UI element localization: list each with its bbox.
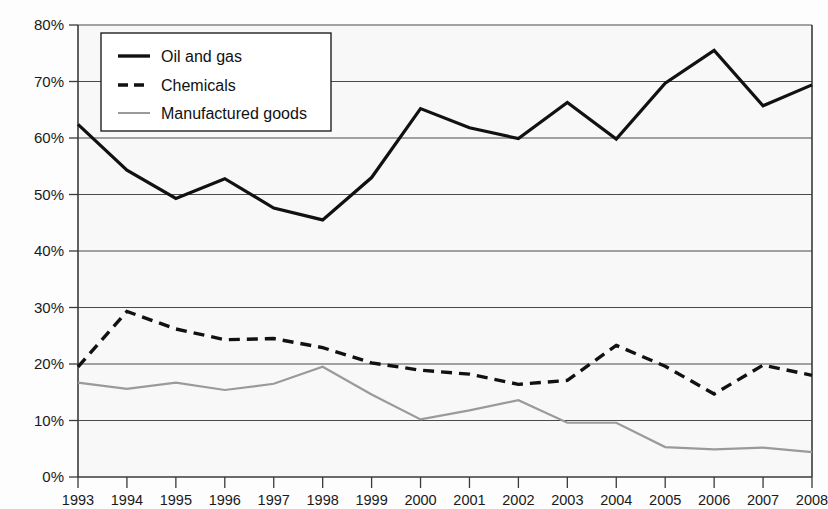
- x-tick-label: 1996: [209, 492, 241, 508]
- x-tick-label: 1998: [307, 492, 339, 508]
- x-tick-label: 2003: [551, 492, 583, 508]
- chart-legend: Oil and gas Chemicals Manufactured goods: [101, 33, 331, 131]
- x-tick-label: 1997: [258, 492, 290, 508]
- chart-container: 0%10%20%30%40%50%60%70%80% 1993199419951…: [0, 0, 828, 509]
- x-tick-label: 1994: [111, 492, 143, 508]
- legend-label-chemicals: Chemicals: [161, 77, 236, 94]
- x-tick-label: 2004: [600, 492, 632, 508]
- y-tick-label: 80%: [34, 16, 64, 33]
- x-tick-label: 2007: [747, 492, 779, 508]
- legend-label-oil-and-gas: Oil and gas: [161, 48, 242, 65]
- x-tick-label: 2002: [502, 492, 534, 508]
- y-tick-label: 10%: [34, 412, 64, 429]
- y-tick-label: 30%: [34, 299, 64, 316]
- x-tick-label: 2008: [796, 492, 828, 508]
- x-tick-label: 1995: [160, 492, 192, 508]
- x-tick-label: 2000: [404, 492, 436, 508]
- line-chart: 0%10%20%30%40%50%60%70%80% 1993199419951…: [0, 0, 828, 509]
- y-tick-label: 20%: [34, 355, 64, 372]
- y-tick-label: 0%: [42, 468, 64, 485]
- y-tick-label: 40%: [34, 242, 64, 259]
- y-tick-label: 60%: [34, 129, 64, 146]
- x-tick-label: 2001: [453, 492, 485, 508]
- y-tick-label: 70%: [34, 73, 64, 90]
- x-tick-label: 2005: [649, 492, 681, 508]
- y-tick-label: 50%: [34, 186, 64, 203]
- x-axis-ticks: 1993199419951996199719981999200020012002…: [62, 477, 828, 508]
- x-tick-label: 1993: [62, 492, 94, 508]
- legend-label-manufactured-goods: Manufactured goods: [161, 105, 307, 122]
- x-tick-label: 1999: [355, 492, 387, 508]
- x-tick-label: 2006: [698, 492, 730, 508]
- y-axis-ticks: 0%10%20%30%40%50%60%70%80%: [34, 16, 78, 485]
